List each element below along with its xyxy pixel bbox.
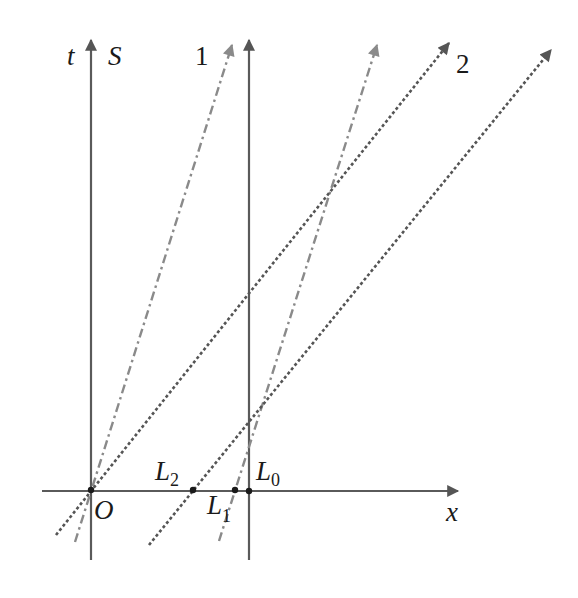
point-L2 — [190, 487, 196, 493]
worldline-2-from-O — [56, 43, 449, 535]
L0-label: L0 — [255, 456, 280, 490]
worldline-2-label: 2 — [456, 49, 470, 79]
point-O — [88, 487, 94, 493]
origin-label: O — [94, 495, 114, 525]
point-L1 — [232, 487, 238, 493]
spacetime-diagram: t S 1 2 x O L2 L1 L0 — [0, 0, 578, 598]
point-L0 — [246, 488, 252, 494]
worldline-1-label: 1 — [195, 41, 209, 71]
worldline-1-from-L1 — [219, 45, 377, 541]
labels-group: t S 1 2 x O L2 L1 L0 — [67, 41, 470, 527]
L1-label: L1 — [206, 490, 231, 526]
t-axis-label: t — [67, 41, 76, 71]
worldline-1-from-O — [75, 45, 232, 542]
worldline-2-from-L2 — [149, 50, 551, 545]
frame-s-label: S — [108, 41, 122, 71]
worldlines-group — [56, 43, 551, 545]
x-axis-label: x — [445, 497, 458, 527]
axes-group — [42, 40, 458, 560]
L2-label: L2 — [154, 456, 179, 490]
